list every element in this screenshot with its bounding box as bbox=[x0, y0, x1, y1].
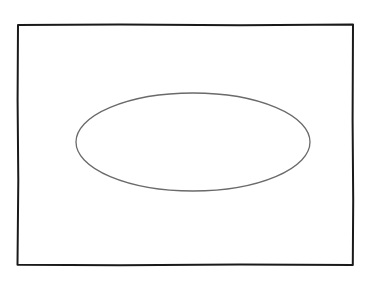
ellipse-shape bbox=[76, 93, 310, 191]
rectangle-frame bbox=[18, 25, 354, 266]
sketch-canvas bbox=[0, 0, 376, 282]
